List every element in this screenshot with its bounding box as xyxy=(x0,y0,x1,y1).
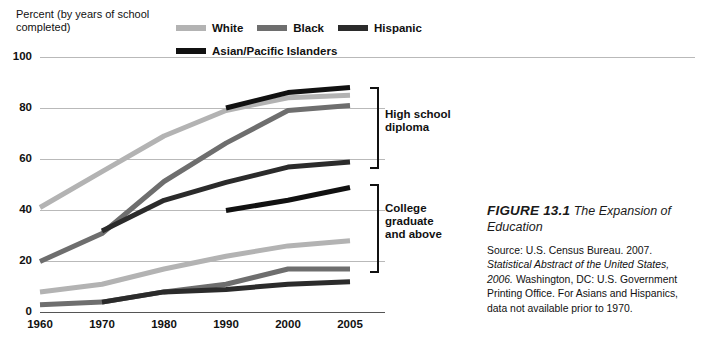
y-tick-100: 100 xyxy=(2,50,32,62)
figure-source: Source: U.S. Census Bureau. 2007. Statis… xyxy=(487,244,691,316)
y-tick-60: 60 xyxy=(2,152,32,164)
figure-number: FIGURE 13.1 xyxy=(487,203,570,218)
figure-heading: FIGURE 13.1 The Expansion of Education xyxy=(487,203,691,235)
x-tick-1980: 1980 xyxy=(144,318,184,330)
bracket-label-high-school-line2: diploma xyxy=(385,121,463,134)
bracket-label-high-school-line1: High school xyxy=(385,108,463,121)
bracket-label-college-line2: graduate xyxy=(385,215,463,228)
figure-source-rest: Washington, DC: U.S. Government Printing… xyxy=(487,274,678,314)
x-tick-2005: 2005 xyxy=(330,318,370,330)
x-tick-2000: 2000 xyxy=(268,318,308,330)
x-tick-1990: 1990 xyxy=(206,318,246,330)
y-tick-40: 40 xyxy=(2,203,32,215)
figure-caption: FIGURE 13.1 The Expansion of Education S… xyxy=(487,203,691,316)
x-tick-1970: 1970 xyxy=(82,318,122,330)
bracket-label-high-school-diploma: High school diploma xyxy=(385,108,463,134)
series-asian-college xyxy=(226,188,350,211)
bracket-label-college-graduate: College graduate and above xyxy=(385,202,463,241)
bracket-college xyxy=(370,185,378,272)
bracket-label-college-line1: College xyxy=(385,202,463,215)
y-tick-80: 80 xyxy=(2,101,32,113)
bracket-highschool xyxy=(370,88,378,168)
figure-source-prefix: Source: U.S. Census Bureau. 2007. xyxy=(487,245,652,256)
y-tick-20: 20 xyxy=(2,254,32,266)
x-tick-1960: 1960 xyxy=(20,318,60,330)
bracket-label-college-line3: and above xyxy=(385,228,463,241)
y-tick-0: 0 xyxy=(2,305,32,317)
